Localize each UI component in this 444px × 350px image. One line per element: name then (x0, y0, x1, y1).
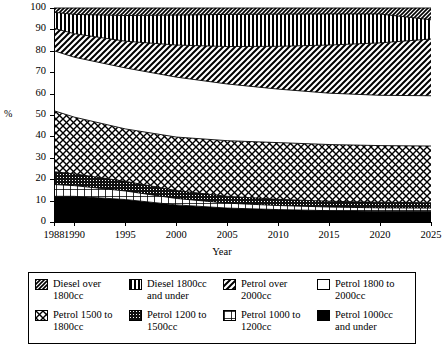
x-tick-label: 2020 (360, 229, 400, 240)
x-axis-title: Year (0, 246, 444, 257)
y-tick-label: 40 (20, 130, 46, 140)
x-tick-mark (278, 222, 279, 226)
x-tick-mark (329, 222, 330, 226)
swatch-petrol-1000-to-1200cc-icon (223, 310, 236, 321)
legend-label-line1: Petrol 1800 to (335, 278, 395, 290)
legend-grid: Diesel over1800ccDiesel 1800ccand underP… (29, 273, 415, 343)
swatch-petrol-1200-to-1500cc-icon (129, 310, 142, 321)
legend: Diesel over1800ccDiesel 1800ccand underP… (28, 272, 416, 344)
x-tick-mark (74, 222, 75, 226)
legend-label-line2: 2000cc (241, 290, 287, 302)
x-tick-mark (380, 222, 381, 226)
y-axis-line (54, 8, 55, 223)
y-tick-mark (50, 51, 54, 52)
y-tick-label: 50 (20, 109, 46, 119)
y-tick-mark (50, 179, 54, 180)
legend-label-line2: and under (147, 290, 207, 302)
legend-label-line2: 1800cc (53, 290, 101, 302)
y-tick-mark (50, 72, 54, 73)
legend-label-line1: Petrol over (241, 278, 287, 290)
swatch-diesel-over-1800cc-icon (35, 279, 48, 290)
x-tick-label: 2025 (411, 229, 444, 240)
legend-label-line1: Diesel over (53, 278, 101, 290)
y-tick-label: 80 (20, 45, 46, 55)
x-tick-label: 2010 (258, 229, 298, 240)
plot-area: % 0102030405060708090100 198819901995200… (0, 0, 444, 262)
legend-label: Petrol 1800 to2000cc (335, 278, 395, 302)
legend-label-line1: Petrol 1500 to (53, 309, 113, 321)
legend-item[interactable]: Diesel over1800cc (35, 278, 129, 309)
y-tick-mark (50, 136, 54, 137)
swatch-petrol-1500-to-1800cc-icon (35, 310, 48, 321)
legend-label: Petrol 1500 to1800cc (53, 309, 113, 333)
y-tick-mark (50, 201, 54, 202)
x-tick-label: 2000 (156, 229, 196, 240)
x-tick-label: 2005 (207, 229, 247, 240)
legend-label-line1: Petrol 1000 to (241, 309, 301, 321)
swatch-petrol-1800-to-2000cc-icon (317, 279, 330, 290)
y-tick-label: 10 (20, 195, 46, 205)
y-tick-label: 100 (20, 2, 46, 12)
legend-label-line2: 2000cc (335, 290, 395, 302)
legend-item[interactable]: Petrol 1200 to1500cc (129, 309, 223, 340)
legend-label: Diesel over1800cc (53, 278, 101, 302)
legend-label-line2: 1200cc (241, 321, 301, 333)
legend-item[interactable]: Petrol over2000cc (223, 278, 317, 309)
legend-item[interactable]: Petrol 1800 to2000cc (317, 278, 411, 309)
y-axis-title: % (4, 108, 12, 119)
legend-label-line1: Diesel 1800cc (147, 278, 207, 290)
swatch-petrol-over-2000cc-icon (223, 279, 236, 290)
x-tick-label: 1995 (105, 229, 145, 240)
y-tick-label: 20 (20, 173, 46, 183)
chart-root: % 0102030405060708090100 198819901995200… (0, 0, 444, 350)
legend-label-line2: 1800cc (53, 321, 113, 333)
legend-item[interactable]: Petrol 1000 to1200cc (223, 309, 317, 340)
x-tick-mark (125, 222, 126, 226)
x-tick-label: 1990 (54, 229, 94, 240)
legend-label-line1: Petrol 1200 to (147, 309, 207, 321)
swatch-diesel-1800cc-and-under-icon (129, 279, 142, 290)
legend-label: Petrol over2000cc (241, 278, 287, 302)
legend-item[interactable]: Petrol 1500 to1800cc (35, 309, 129, 340)
legend-label: Petrol 1200 to1500cc (147, 309, 207, 333)
y-tick-mark (50, 94, 54, 95)
legend-label: Petrol 1000ccand under (335, 309, 393, 333)
legend-label: Petrol 1000 to1200cc (241, 309, 301, 333)
legend-label-line2: and under (335, 321, 393, 333)
swatch-petrol-1000cc-and-under-icon (317, 310, 330, 321)
y-tick-mark (50, 29, 54, 30)
y-tick-label: 70 (20, 66, 46, 76)
legend-label-line2: 1500cc (147, 321, 207, 333)
y-tick-mark (50, 158, 54, 159)
legend-label: Diesel 1800ccand under (147, 278, 207, 302)
x-tick-label: 2015 (309, 229, 349, 240)
legend-label-line1: Petrol 1000cc (335, 309, 393, 321)
y-tick-mark (50, 8, 54, 9)
legend-item[interactable]: Petrol 1000ccand under (317, 309, 411, 340)
x-tick-mark (227, 222, 228, 226)
x-tick-mark (54, 222, 55, 226)
area-bands (54, 8, 431, 222)
y-tick-label: 0 (20, 216, 46, 226)
y-tick-label: 30 (20, 152, 46, 162)
x-tick-mark (176, 222, 177, 226)
x-tick-mark (431, 222, 432, 226)
y-tick-label: 60 (20, 88, 46, 98)
x-axis-line (54, 222, 431, 223)
legend-item[interactable]: Diesel 1800ccand under (129, 278, 223, 309)
y-tick-mark (50, 115, 54, 116)
y-tick-label: 90 (20, 23, 46, 33)
